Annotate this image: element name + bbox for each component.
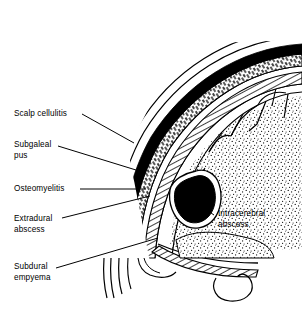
label-scalp-cellulitis: Scalp cellulitis: [14, 109, 67, 120]
intracerebral-abscess-cavity: [170, 170, 221, 228]
leader-subdural-empyema: [56, 238, 158, 268]
label-extradural-abscess: Extradural abscess: [14, 214, 52, 235]
label-subdural-empyema: Subdural empyema: [14, 262, 51, 283]
label-osteomyelitis: Osteomyelitis: [14, 184, 64, 195]
scalp-base-continuation: [104, 258, 176, 298]
leader-scalp-cellulitis: [82, 114, 134, 143]
leader-extradural-abscess: [62, 196, 150, 218]
temporal-lobe-hook: [214, 274, 253, 301]
cranial-infection-diagram: Scalp cellulitis Subgaleal pus Osteomyel…: [0, 0, 302, 315]
leader-subgaleal-pus: [58, 146, 136, 170]
label-subgaleal-pus: Subgaleal pus: [14, 140, 51, 161]
label-intracerebral-abscess: Intracerebral abscess: [218, 209, 265, 230]
